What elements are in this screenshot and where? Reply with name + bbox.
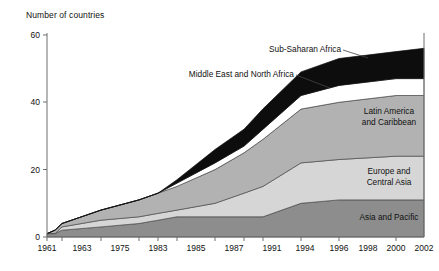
series-label-middle-east-and-north-africa: Middle East and North Africa: [152, 69, 294, 80]
x-tick-1996: 1996: [330, 243, 349, 253]
y-axis-ticks: [43, 35, 47, 237]
latin-america-line-2: and Caribbean: [362, 117, 416, 128]
stacked-area-chart: Number of countries 60 40 20 0 1961 1963…: [0, 0, 439, 271]
x-tick-1985: 1985: [187, 243, 206, 253]
x-tick-1994: 1994: [296, 243, 315, 253]
y-tick-20: 20: [18, 165, 40, 175]
y-tick-0: 0: [18, 232, 40, 242]
x-tick-1998: 1998: [359, 243, 378, 253]
series-label-sub-saharan-africa: Sub-Saharan Africa: [253, 44, 341, 55]
x-tick-1983: 1983: [149, 243, 168, 253]
x-axis-ticks: [47, 237, 396, 241]
europe-line-2: Central Asia: [367, 177, 412, 188]
series-label-latin-america-and-caribbean: Latin America and Caribbean: [362, 106, 416, 127]
x-tick-2000: 2000: [387, 243, 406, 253]
x-tick-1987: 1987: [225, 243, 244, 253]
y-tick-60: 60: [18, 30, 40, 40]
series-label-europe-and-central-asia: Europe and Central Asia: [367, 166, 412, 187]
y-tick-40: 40: [18, 97, 40, 107]
x-tick-2002: 2002: [415, 243, 434, 253]
chart-canvas: [0, 0, 439, 271]
series-label-asia-and-pacific: Asia and Pacific: [359, 212, 418, 223]
latin-america-line-1: Latin America: [362, 106, 416, 117]
x-tick-1961: 1961: [38, 243, 57, 253]
europe-line-1: Europe and: [367, 166, 412, 177]
x-tick-1991: 1991: [263, 243, 282, 253]
x-tick-1963: 1963: [73, 243, 92, 253]
x-tick-1975: 1975: [111, 243, 130, 253]
y-axis-title: Number of countries: [26, 10, 104, 20]
